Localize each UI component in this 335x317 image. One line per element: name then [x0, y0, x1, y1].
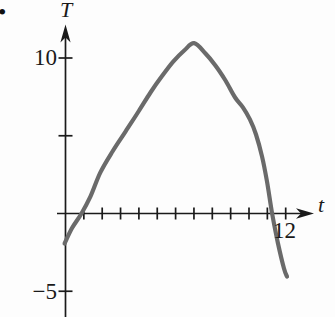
y-tick-label-10: 10 — [24, 45, 57, 70]
x-tick-label-12: 12 — [271, 218, 298, 243]
y-axis-title: T — [54, 0, 78, 22]
temperature-curve — [65, 43, 287, 276]
y-tick-label-neg5: −5 — [22, 279, 57, 304]
x-axis-title: t — [318, 192, 334, 217]
textbook-figure: • T t 10 −5 12 — [0, 0, 335, 317]
axes — [57, 25, 314, 317]
